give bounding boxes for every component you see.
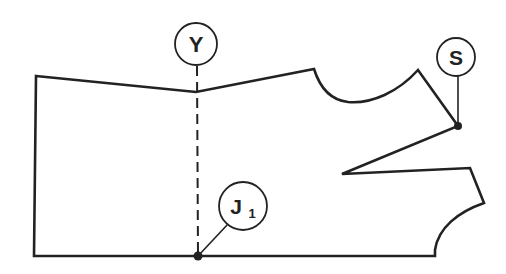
point-s-dot [454,122,462,130]
label-j1-subscript: 1 [248,206,255,221]
pattern-outline [34,69,484,256]
pattern-diagram: Y S J 1 [0,0,506,274]
label-s: S [437,38,475,130]
label-j1: J 1 [194,182,268,261]
point-j1-dot [194,252,203,261]
label-j1-circle [219,182,267,230]
center-guide-line [197,66,198,256]
pattern-svg: Y S J 1 [0,0,506,274]
label-y-text: Y [189,32,204,57]
label-s-text: S [449,46,463,69]
label-j1-leader [198,224,228,256]
label-j1-text: J [230,195,242,218]
label-y: Y [175,23,217,65]
